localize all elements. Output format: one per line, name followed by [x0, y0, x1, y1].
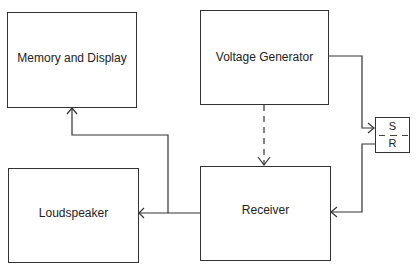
memory-display-label: Memory and Display: [8, 51, 136, 65]
sr-s-label: S: [376, 120, 409, 132]
sr-to-receiver-line: [331, 144, 375, 212]
sr-r-label: R: [376, 137, 409, 149]
sr-dash-right: [402, 135, 408, 136]
sr-dash-left: [379, 135, 385, 136]
loudspeaker-block: Loudspeaker: [8, 168, 139, 263]
voltage-generator-block: Voltage Generator: [200, 10, 329, 105]
memory-display-block: Memory and Display: [7, 12, 137, 108]
receiver-label: Receiver: [201, 203, 330, 217]
voltage-generator-label: Voltage Generator: [201, 50, 328, 64]
voltage-to-sr-line: [328, 56, 374, 128]
loudspeaker-label: Loudspeaker: [9, 206, 138, 220]
sr-dash-mid: [390, 135, 397, 136]
receiver-block: Receiver: [200, 166, 331, 261]
sr-element: S R: [375, 117, 410, 153]
